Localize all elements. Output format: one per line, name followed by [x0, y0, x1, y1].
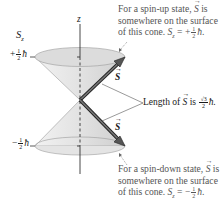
sz-axis-label: Sz — [16, 29, 24, 42]
z-axis-label: z — [77, 14, 81, 24]
spin-down-caption: For a spin-down state, S is somewhere on… — [118, 163, 219, 201]
length-pointer-lines — [102, 84, 143, 121]
spin-up-vector-label: S — [115, 72, 120, 82]
spin-down-vector-label: S — [115, 122, 120, 132]
length-caption: Length of S is √32ħ. — [143, 96, 216, 109]
plus-half-hbar-label: +12ħ — [10, 48, 27, 61]
spin-up-caption: For a spin-up state, S is somewhere on t… — [118, 3, 218, 42]
caption-leader-up — [119, 42, 127, 52]
minus-half-hbar-label: −12ħ — [12, 137, 29, 150]
